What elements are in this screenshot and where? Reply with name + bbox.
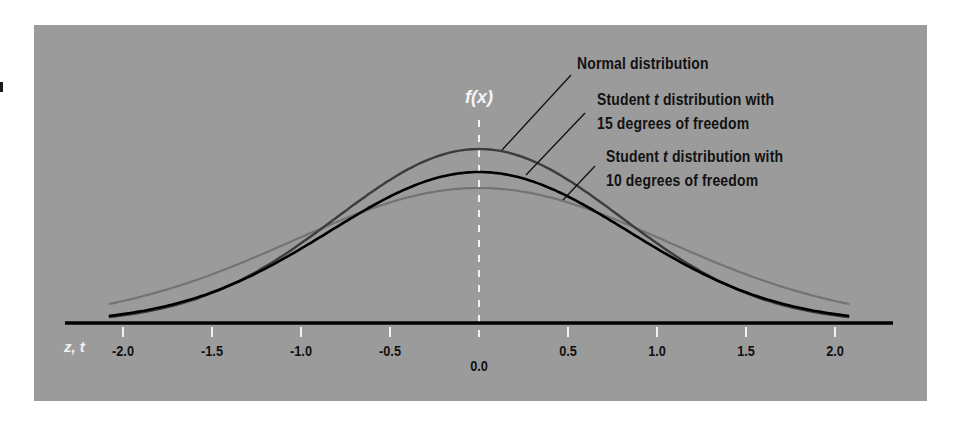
label-t15-line2: 15 degrees of freedom <box>597 112 749 136</box>
tick-label: 0.5 <box>559 342 577 359</box>
y-axis-label: f(x) <box>465 87 493 108</box>
label-t10-line2: 10 degrees of freedom <box>606 169 758 193</box>
label-t10-text-a: Student <box>606 147 663 166</box>
label-t15-line1: Student t distribution with <box>597 88 774 112</box>
label-t15-text-b: distribution with <box>659 90 774 109</box>
tick-label: -1.0 <box>290 342 312 359</box>
label-normal: Normal distribution <box>577 52 709 76</box>
label-t10-line1: Student t distribution with <box>606 145 783 169</box>
callout-t15 <box>526 113 585 175</box>
x-axis-label: z, t <box>64 338 85 355</box>
label-t10-text-b: distribution with <box>668 147 783 166</box>
tick-label: 0.0 <box>470 357 488 374</box>
tick-label: 1.0 <box>648 342 666 359</box>
tick-label: -2.0 <box>112 342 134 359</box>
tick-label: 2.0 <box>826 342 844 359</box>
tick-label: 1.5 <box>737 342 755 359</box>
tick-label: -0.5 <box>379 342 401 359</box>
tick-label: -1.5 <box>201 342 223 359</box>
label-t15-text-a: Student <box>597 90 654 109</box>
